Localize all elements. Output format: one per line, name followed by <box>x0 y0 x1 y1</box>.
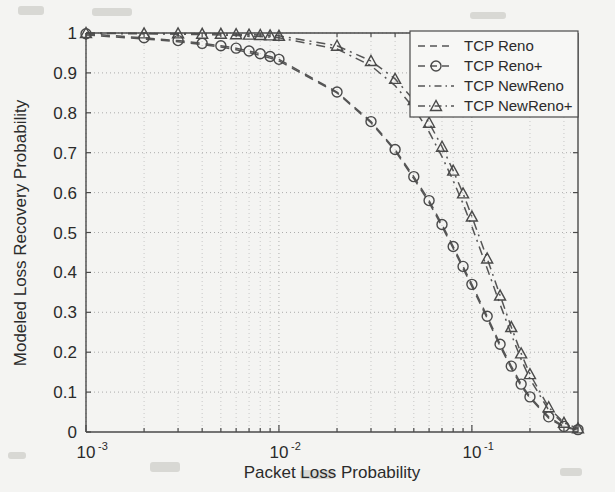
y-tick-label: 0.6 <box>53 184 77 203</box>
paper-speck <box>92 8 132 16</box>
paper-speck <box>150 462 180 472</box>
y-tick-label: 0.1 <box>53 383 77 402</box>
legend-label-2: TCP NewReno <box>464 77 564 94</box>
figure-container: 00.10.20.30.40.50.60.70.80.9110-310-210-… <box>0 0 615 492</box>
y-tick-label: 0.9 <box>53 64 77 83</box>
paper-speck <box>18 6 44 15</box>
data-marker-circle <box>482 311 492 321</box>
x-tick-exponent: -3 <box>98 440 108 452</box>
data-marker-circle <box>244 46 254 56</box>
y-tick-label: 0.4 <box>53 263 77 282</box>
legend-label-3: TCP NewReno+ <box>464 97 573 114</box>
y-tick-label: 0.8 <box>53 104 77 123</box>
legend-label-1: TCP Reno+ <box>464 57 543 74</box>
y-tick-label: 0 <box>68 423 77 442</box>
x-tick-label: 10 <box>269 443 288 462</box>
y-tick-label: 0.3 <box>53 303 77 322</box>
x-tick-exponent: -1 <box>484 440 494 452</box>
x-tick-label: 10 <box>77 443 96 462</box>
y-tick-label: 0.7 <box>53 144 77 163</box>
legend-label-0: TCP Reno <box>464 37 534 54</box>
data-marker-triangle <box>482 253 493 263</box>
data-marker-circle <box>495 339 505 349</box>
x-tick-exponent: -2 <box>291 440 301 452</box>
chart-plot: 00.10.20.30.40.50.60.70.80.9110-310-210-… <box>0 0 615 492</box>
y-axis-title: Modeled Loss Recovery Probability <box>11 99 30 366</box>
x-tick-label: 10 <box>462 443 481 462</box>
chart-legend: TCP RenoTCP Reno+TCP NewRenoTCP NewReno+ <box>410 31 578 117</box>
data-marker-circle <box>516 379 526 389</box>
paper-speck <box>470 12 506 19</box>
x-axis-title: Packet Loss Probability <box>244 463 421 482</box>
y-tick-label: 0.2 <box>53 343 77 362</box>
y-tick-label: 0.5 <box>53 224 77 243</box>
paper-speck <box>560 468 582 476</box>
paper-speck <box>8 452 26 459</box>
y-tick-label: 1 <box>68 24 77 43</box>
